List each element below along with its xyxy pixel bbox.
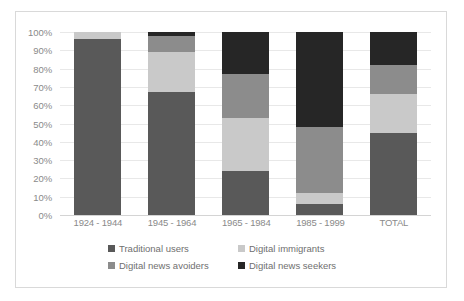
- gridline: [60, 215, 431, 216]
- y-axis-tick-label: 90%: [33, 45, 52, 56]
- legend-label: Digital news seekers: [249, 260, 336, 271]
- y-axis-tick-label: 0%: [38, 210, 52, 221]
- bar-segment[interactable]: [74, 32, 121, 39]
- bar-segment[interactable]: [296, 32, 343, 127]
- x-axis: 1924 - 19441945 - 19641965 - 19841985 - …: [60, 217, 431, 235]
- plot-area: [60, 32, 431, 215]
- x-axis-tick-label: 1924 - 1944: [74, 217, 121, 228]
- y-axis: 100%90%80%70%60%50%40%30%20%10%0%: [16, 32, 56, 215]
- legend-swatch-icon: [108, 262, 115, 269]
- y-axis-tick-label: 10%: [33, 191, 52, 202]
- bar-segment[interactable]: [370, 133, 417, 215]
- y-axis-tick-label: 50%: [33, 118, 52, 129]
- legend-label: Digital immigrants: [249, 243, 325, 254]
- y-axis-tick-label: 100%: [28, 27, 52, 38]
- y-axis-tick-label: 70%: [33, 81, 52, 92]
- bar-segment[interactable]: [148, 36, 195, 52]
- bar-segment[interactable]: [222, 74, 269, 118]
- x-axis-tick-label: 1965 - 1984: [222, 217, 269, 228]
- chart-legend: Traditional usersDigital immigrantsDigit…: [108, 240, 378, 274]
- legend-item[interactable]: Digital news seekers: [238, 257, 378, 274]
- bar-segment[interactable]: [370, 32, 417, 65]
- y-axis-tick-label: 30%: [33, 155, 52, 166]
- x-axis-tick-label: 1985 - 1999: [296, 217, 343, 228]
- x-axis-tick-label: 1945 - 1964: [148, 217, 195, 228]
- bar-segment[interactable]: [74, 39, 121, 215]
- bar-column[interactable]: [74, 32, 121, 215]
- bar-segment[interactable]: [296, 193, 343, 204]
- bar-segment[interactable]: [148, 52, 195, 92]
- y-axis-tick-label: 80%: [33, 63, 52, 74]
- legend-swatch-icon: [238, 262, 245, 269]
- bar-segment[interactable]: [222, 118, 269, 171]
- bar-column[interactable]: [148, 32, 195, 215]
- legend-item[interactable]: Digital news avoiders: [108, 257, 238, 274]
- bar-segment[interactable]: [370, 94, 417, 132]
- chart-frame: 100%90%80%70%60%50%40%30%20%10%0% 1924 -…: [15, 11, 447, 288]
- legend-label: Digital news avoiders: [119, 260, 209, 271]
- bar-segment[interactable]: [222, 171, 269, 215]
- bar-column[interactable]: [296, 32, 343, 215]
- legend-swatch-icon: [238, 245, 245, 252]
- bar-segment[interactable]: [370, 65, 417, 94]
- y-axis-tick-label: 60%: [33, 100, 52, 111]
- legend-label: Traditional users: [119, 243, 189, 254]
- stacked-bar-group: [60, 32, 431, 215]
- bar-column[interactable]: [370, 32, 417, 215]
- y-axis-tick-label: 20%: [33, 173, 52, 184]
- bar-segment[interactable]: [222, 32, 269, 74]
- legend-item[interactable]: Traditional users: [108, 240, 238, 257]
- x-axis-tick-label: TOTAL: [370, 217, 417, 228]
- legend-item[interactable]: Digital immigrants: [238, 240, 378, 257]
- bar-segment[interactable]: [296, 204, 343, 215]
- bar-segment[interactable]: [148, 92, 195, 215]
- y-axis-tick-label: 40%: [33, 136, 52, 147]
- bar-column[interactable]: [222, 32, 269, 215]
- legend-swatch-icon: [108, 245, 115, 252]
- bar-segment[interactable]: [296, 127, 343, 193]
